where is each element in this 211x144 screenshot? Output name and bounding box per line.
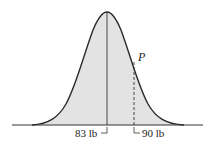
normal-curve-diagram: 83 lb 90 lb P <box>0 0 211 144</box>
value-label: 90 lb <box>142 127 165 139</box>
value-tick-bracket <box>134 127 140 133</box>
point-p-label: P <box>137 50 146 64</box>
mean-label: 83 lb <box>75 127 98 139</box>
mean-tick-bracket <box>101 127 107 133</box>
shaded-area <box>32 12 184 125</box>
